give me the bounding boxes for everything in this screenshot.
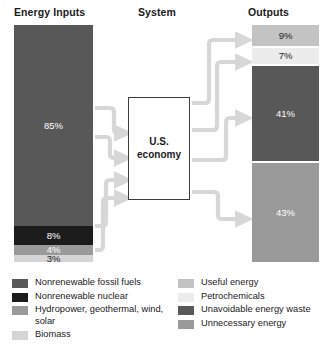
input-bar-segment-label: 8% xyxy=(47,231,61,241)
output-bar-segment: 9% xyxy=(252,25,319,46)
input-bar-segment: 85% xyxy=(14,25,93,226)
output-bar-segment: 7% xyxy=(252,48,319,64)
legend-input-label: Nonrenewable fossil fuels xyxy=(35,277,141,288)
legend-input-swatch xyxy=(12,331,28,340)
legend-output-label: Useful energy xyxy=(201,277,258,288)
output-bar-segment: 43% xyxy=(252,163,319,262)
legend-output-label: Unavoidable energy waste xyxy=(201,304,311,315)
flow-in-fossil xyxy=(95,108,125,133)
legend-input-item: Nonrenewable fossil fuels xyxy=(12,277,172,288)
legend-output-swatch xyxy=(178,279,194,288)
legend-output-swatch xyxy=(178,293,194,302)
input-bar-segment-label: 3% xyxy=(47,254,61,264)
input-bar-segment: 3% xyxy=(14,255,93,262)
input-bar-segment-label: 85% xyxy=(44,121,63,131)
output-bar-segment-label: 9% xyxy=(279,31,293,41)
legend-input-label: Nonrenewable nuclear xyxy=(35,291,128,302)
legend-input-swatch xyxy=(12,293,28,302)
legend-output-item: Unnecessary energy xyxy=(178,318,328,329)
legend-output-label: Unnecessary energy xyxy=(201,318,286,329)
output-bar: 9%7%41%43% xyxy=(252,25,319,262)
legend-output-swatch xyxy=(178,306,194,315)
legend-column-outputs: Useful energyPetrochemicalsUnavoidable e… xyxy=(178,277,328,332)
legend-input-label: Hydropower, geothermal, wind, solar xyxy=(35,304,172,326)
input-bar: 85%8%4%3% xyxy=(14,25,93,262)
system-box-line2: economy xyxy=(137,149,181,162)
legend-input-item: Nonrenewable nuclear xyxy=(12,291,172,302)
legend-output-item: Unavoidable energy waste xyxy=(178,304,328,315)
legend-output-label: Petrochemicals xyxy=(201,291,265,302)
legend-input-item: Hydropower, geothermal, wind, solar xyxy=(12,304,172,326)
legend-output-item: Useful energy xyxy=(178,277,328,288)
output-bar-segment-label: 7% xyxy=(279,51,293,61)
system-box: U.S. economy xyxy=(128,97,190,200)
flow-in-nuclear xyxy=(95,137,125,158)
legend-input-swatch xyxy=(12,306,28,315)
input-bar-segment: 8% xyxy=(14,226,93,245)
legend-output-swatch xyxy=(178,320,194,329)
system-box-line1: U.S. xyxy=(149,136,168,149)
legend-output-item: Petrochemicals xyxy=(178,291,328,302)
legend-column-inputs: Nonrenewable fossil fuelsNonrenewable nu… xyxy=(12,277,172,343)
legend-input-swatch xyxy=(12,279,28,288)
energy-flow-diagram: Energy Inputs System Outputs 85%8%4%3% U… xyxy=(0,0,331,361)
output-bar-segment-label: 43% xyxy=(276,208,295,218)
output-bar-segment: 41% xyxy=(252,66,319,161)
legend-input-label: Biomass xyxy=(35,329,71,340)
flow-out-unnecessary xyxy=(192,192,246,219)
flow-in-renewables xyxy=(95,180,125,226)
output-bar-segment-label: 41% xyxy=(276,109,295,119)
legend-input-item: Biomass xyxy=(12,329,172,340)
